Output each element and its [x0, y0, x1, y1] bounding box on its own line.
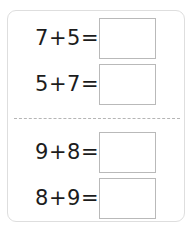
section-divider — [14, 118, 180, 119]
problem-row: 9+8= — [8, 129, 184, 176]
problem-row: 7+5= — [8, 15, 184, 62]
problem-expression: 5+7= — [8, 74, 99, 95]
problem-expression: 8+9= — [8, 188, 99, 209]
worksheet-card: 7+5= 5+7= 9+8= 8+9= — [7, 10, 185, 222]
problem-row: 8+9= — [8, 175, 184, 222]
answer-box[interactable] — [99, 18, 156, 59]
answer-box[interactable] — [99, 64, 156, 105]
answer-box[interactable] — [99, 132, 156, 173]
problem-row: 5+7= — [8, 61, 184, 108]
problem-section-bottom: 9+8= 8+9= — [8, 121, 184, 223]
problem-expression: 9+8= — [8, 142, 99, 163]
answer-box[interactable] — [99, 178, 156, 219]
problem-expression: 7+5= — [8, 28, 99, 49]
problem-section-top: 7+5= 5+7= — [8, 11, 184, 119]
